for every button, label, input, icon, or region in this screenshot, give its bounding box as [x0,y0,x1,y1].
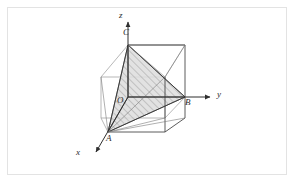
axis-label-x: x [76,148,80,157]
geometry-figure: z y x O A B C [0,0,295,184]
axis-label-z: z [119,11,123,20]
axis-label-y: y [217,90,221,99]
point-label-c: C [123,28,129,37]
cube-coordinate-diagram [0,0,295,184]
point-label-a: A [106,134,112,143]
point-label-o: O [117,96,124,105]
shaded-triangle-hatch [108,45,185,132]
point-label-b: B [185,98,191,107]
